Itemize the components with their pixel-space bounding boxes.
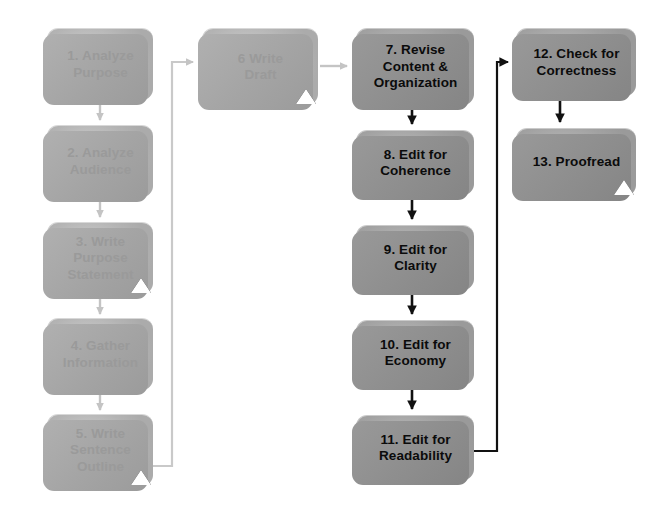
flow-node-step-9[interactable]: 9. Edit for Clarity — [356, 225, 474, 290]
flow-node-label: 11. Edit for Readability — [379, 432, 452, 465]
flow-node-step-10[interactable]: 10. Edit for Economy — [356, 320, 474, 385]
flow-node-label: 10. Edit for Economy — [380, 337, 451, 370]
flow-node-label: 9. Edit for Clarity — [384, 242, 447, 275]
flow-node-step-13[interactable]: 13. Proofread — [516, 128, 636, 196]
flow-node-label: 3. Write Purpose Statement — [67, 234, 133, 283]
flow-node-step-2[interactable]: 2. Analyze Audience — [47, 125, 153, 197]
flow-node-step-5[interactable]: 5. Write Sentence Outline — [47, 414, 153, 486]
corner-triangle-marker-icon — [614, 180, 634, 195]
flow-node-step-6[interactable]: 6 Write Draft — [202, 28, 318, 105]
flow-node-label: 2. Analyze Audience — [67, 145, 134, 178]
flow-node-label: 1. Analyze Purpose — [67, 48, 134, 81]
connector-11-12 — [474, 62, 508, 451]
flow-node-label: 8. Edit for Coherence — [380, 147, 451, 180]
flow-node-step-4[interactable]: 4. Gather Information — [47, 318, 153, 390]
flow-node-step-3[interactable]: 3. Write Purpose Statement — [47, 222, 153, 294]
corner-triangle-marker-icon — [131, 278, 151, 293]
corner-triangle-marker-icon — [131, 470, 151, 485]
flowchart-canvas: 1. Analyze Purpose2. Analyze Audience3. … — [0, 0, 663, 514]
flow-node-label: 12. Check for Correctness — [533, 46, 619, 79]
flow-node-label: 5. Write Sentence Outline — [70, 426, 131, 475]
flow-node-label: 13. Proofread — [533, 154, 621, 170]
flow-node-label: 6 Write Draft — [238, 51, 283, 84]
connector-5-6 — [152, 62, 193, 466]
flow-node-label: 4. Gather Information — [63, 338, 138, 371]
flow-node-step-11[interactable]: 11. Edit for Readability — [356, 415, 474, 480]
corner-triangle-marker-icon — [296, 89, 316, 104]
flow-node-step-8[interactable]: 8. Edit for Coherence — [356, 130, 474, 195]
flow-node-step-12[interactable]: 12. Check for Correctness — [516, 28, 636, 96]
flow-node-step-1[interactable]: 1. Analyze Purpose — [47, 28, 153, 100]
flow-node-label: 7. Revise Content & Organization — [374, 42, 458, 91]
flow-node-step-7[interactable]: 7. Revise Content & Organization — [356, 28, 474, 105]
